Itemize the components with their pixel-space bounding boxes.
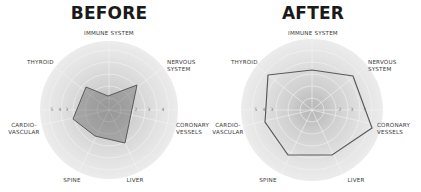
before-label-nervous-system: NERVOUS SYSTEM (167, 59, 195, 73)
before-label-cardiovascular: CARDIO- VASCULAR (8, 122, 39, 136)
after-label-immune-system: IMMUNE SYSTEM (288, 30, 338, 37)
after-label-liver: LIVER (347, 177, 364, 184)
after-label-cardiovascular: CARDIO- VASCULAR (212, 122, 243, 136)
after-label-cardio-line1: CARDIO- (212, 122, 243, 129)
after-label-thyroid: THYROID (231, 59, 258, 66)
after-tick-right-2: 3 (351, 107, 354, 112)
before-tick-left-3: 3 (66, 107, 69, 112)
before-tick-left-1: 5 (51, 107, 54, 112)
after-label-cardio-line2: VASCULAR (212, 129, 243, 136)
before-tick-left-2: 4 (59, 107, 62, 112)
before-label-liver: LIVER (126, 177, 143, 184)
before-label-coronary-vessels: CORONARY VESSELS (176, 122, 209, 136)
before-label-coronary-line1: CORONARY (176, 122, 209, 129)
before-label-spine: SPINE (63, 177, 80, 184)
before-label-immune-system: IMMUNE SYSTEM (84, 30, 134, 37)
before-tick-right-1: 2 (135, 107, 138, 112)
before-label-nervous-line1: NERVOUS (167, 59, 195, 66)
after-label-nervous-system: NERVOUS SYSTEM (368, 59, 396, 73)
after-label-spine: SPINE (259, 177, 276, 184)
after-label-coronary-line2: VESSELS (377, 129, 410, 136)
after-label-coronary-vessels: CORONARY VESSELS (377, 122, 410, 136)
before-tick-right-3: 4 (162, 107, 165, 112)
before-tick-right-2: 3 (148, 107, 151, 112)
after-tick-left-1: 5 (255, 107, 258, 112)
radar-charts-canvas (0, 0, 421, 192)
before-label-cardio-line1: CARDIO- (8, 122, 39, 129)
before-label-coronary-line2: VESSELS (176, 129, 209, 136)
before-label-nervous-line2: SYSTEM (167, 66, 195, 73)
after-tick-right-3: 4 (364, 107, 367, 112)
after-tick-right-1: 2 (339, 107, 342, 112)
after-label-coronary-line1: CORONARY (377, 122, 410, 129)
after-tick-left-3: 3 (271, 107, 274, 112)
before-label-thyroid: THYROID (27, 59, 54, 66)
after-title: AFTER (282, 3, 344, 23)
after-label-nervous-line2: SYSTEM (368, 66, 396, 73)
after-tick-left-2: 4 (263, 107, 266, 112)
after-label-nervous-line1: NERVOUS (368, 59, 396, 66)
before-title: BEFORE (71, 3, 148, 23)
before-label-cardio-line2: VASCULAR (8, 129, 39, 136)
